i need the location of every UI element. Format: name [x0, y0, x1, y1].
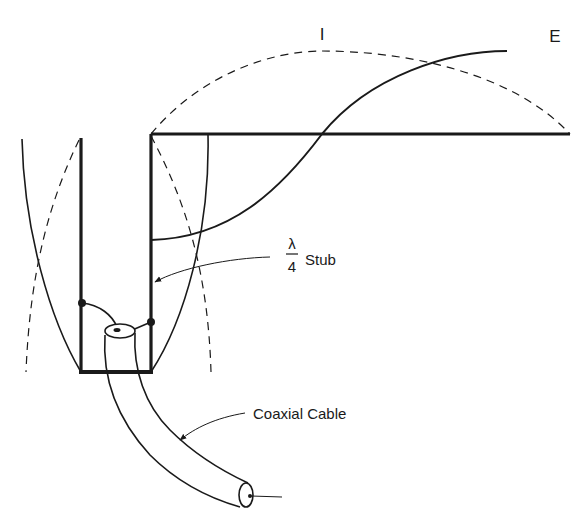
current-distribution-curve — [151, 51, 570, 134]
stub-fraction-denominator: 4 — [288, 258, 296, 275]
coax-center-conductor — [251, 496, 282, 497]
voltage-label: E — [549, 27, 560, 46]
stub-left-voltage-curve — [22, 139, 81, 372]
coax-top-center — [114, 328, 121, 332]
coax-cable-outer-left — [105, 335, 240, 507]
current-label: I — [320, 25, 325, 44]
antenna-diagram: I E λ 4 Stub Coaxial Cable — [0, 0, 583, 526]
stub-right-current-curve — [151, 136, 211, 372]
stub-label-arrow — [155, 257, 270, 282]
stub-label: Stub — [305, 251, 336, 268]
stub-left-current-curve — [26, 140, 79, 372]
coax-label-arrow — [180, 413, 245, 440]
stub-right-voltage-curve — [151, 135, 208, 372]
coax-label: Coaxial Cable — [253, 405, 346, 422]
stub-fraction-numerator: λ — [288, 235, 296, 252]
coax-shield-wire — [82, 303, 117, 327]
